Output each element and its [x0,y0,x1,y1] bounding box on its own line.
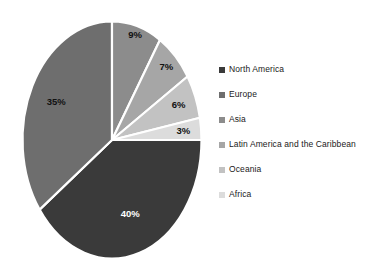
legend-swatch-icon [219,67,225,73]
legend-item-label: Oceania [229,157,261,182]
legend-item[interactable]: Africa [219,182,371,207]
pie-plot-area: 40%35%9%7%6%3% [0,0,215,266]
pie-svg: 40%35%9%7%6%3% [0,0,215,266]
legend-item-label: Latin America and the Caribbean [229,132,356,157]
legend-swatch-icon [219,192,225,198]
chart-legend: North AmericaEuropeAsiaLatin America and… [219,57,371,207]
pie-chart-figure: 40%35%9%7%6%3% North AmericaEuropeAsiaLa… [0,0,373,266]
legend-swatch-icon [219,167,225,173]
legend-item[interactable]: Asia [219,107,371,132]
pie-slice-label: 9% [128,29,142,40]
pie-slice-label: 40% [121,208,141,219]
pie-slice-label: 6% [172,99,186,110]
legend-item[interactable]: Oceania [219,157,371,182]
pie-slice-label: 7% [160,61,174,72]
legend-item-label: North America [229,57,284,82]
pie-slice-label: 35% [47,96,67,107]
legend-item-label: Africa [229,182,251,207]
pie-slice-label: 3% [176,125,190,136]
legend-item[interactable]: Europe [219,82,371,107]
legend-swatch-icon [219,117,225,123]
legend-item-label: Asia [229,107,246,132]
legend-item-label: Europe [229,82,257,107]
pie-slice-group [22,21,201,258]
legend-swatch-icon [219,92,225,98]
legend-swatch-icon [219,142,225,148]
legend-item[interactable]: North America [219,57,371,82]
legend-item[interactable]: Latin America and the Caribbean [219,132,371,157]
